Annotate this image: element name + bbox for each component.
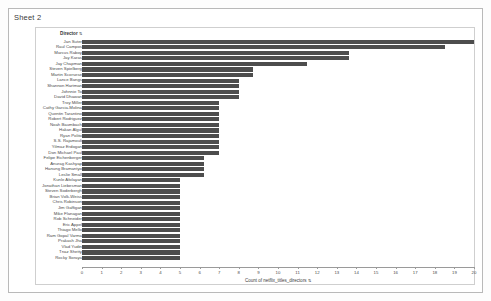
bar-mark[interactable] [82,173,204,177]
x-axis-tick-label: 8 [238,270,240,275]
x-axis-tick [435,267,436,269]
chart-card: Director ⇅ Jan SuterRaul CamposMarcus Ra… [35,27,475,285]
bar-mark[interactable] [82,134,219,138]
bar-mark[interactable] [82,73,253,77]
x-axis-tick [317,267,318,269]
x-axis-tick [298,267,299,269]
x-axis-tick [396,267,397,269]
bar-mark[interactable] [82,151,219,155]
x-axis-tick-label: 12 [315,270,320,275]
x-axis-tick-label: 17 [413,270,418,275]
bar-mark[interactable] [82,212,180,216]
x-axis-tick [376,267,377,269]
bar-rows: Jan SuterRaul CamposMarcus RaboyJay Kara… [36,39,476,264]
axis-sort-icon[interactable]: ⇅ [308,278,311,283]
x-axis-tick [102,267,103,269]
bar-mark[interactable] [82,128,219,132]
sort-icon[interactable]: ⇅ [79,31,82,36]
x-axis-tick [356,267,357,269]
bar-mark[interactable] [82,162,204,166]
x-axis-tick-label: 2 [120,270,122,275]
bar-mark[interactable] [82,84,239,88]
x-axis-tick-label: 14 [354,270,359,275]
x-axis-tick-label: 7 [218,270,220,275]
worksheet-frame: Sheet 2 Director ⇅ Jan SuterRaul CamposM… [8,8,483,293]
bar-mark[interactable] [82,178,180,182]
bar-mark[interactable] [82,156,204,160]
x-axis-tick-label: 13 [334,270,339,275]
x-axis-title[interactable]: Count of netflix_titles_directors ⇅ [82,278,474,283]
bar-mark[interactable] [82,184,180,188]
bar-mark[interactable] [82,106,219,110]
bar-mark[interactable] [82,206,180,210]
dimension-column-header[interactable]: Director ⇅ [36,31,82,36]
bar-mark[interactable] [82,79,239,83]
bar-mark[interactable] [82,239,180,243]
tableau-worksheet-screenshot: Sheet 2 Director ⇅ Jan SuterRaul CamposM… [0,0,491,301]
x-axis-tick [200,267,201,269]
x-axis-tick [239,267,240,269]
bar-mark[interactable] [82,40,474,44]
dimension-header-label: Director [60,31,78,36]
x-axis-tick-label: 4 [159,270,161,275]
x-axis-tick [219,267,220,269]
bar-mark[interactable] [82,145,219,149]
x-axis-tick-label: 1 [100,270,102,275]
bar-mark[interactable] [82,51,349,55]
bar-mark[interactable] [82,56,349,60]
x-axis-tick-label: 0 [81,270,83,275]
bar-mark[interactable] [82,45,445,49]
x-axis-tick-label: 6 [198,270,200,275]
bar-mark[interactable] [82,250,180,254]
bar-mark[interactable] [82,62,307,66]
x-axis-title-label: Count of netflix_titles_directors [245,278,307,283]
bar-mark[interactable] [82,95,239,99]
bar-mark[interactable] [82,228,180,232]
x-axis-tick-label: 16 [393,270,398,275]
bar-row[interactable]: Rocky Soraya [36,255,476,261]
x-axis-tick [258,267,259,269]
x-axis-tick [160,267,161,269]
x-axis-tick-label: 5 [179,270,181,275]
x-axis-tick [454,267,455,269]
bar-mark[interactable] [82,140,219,144]
bar-row-label[interactable]: Rocky Soraya [38,255,82,260]
bar-mark[interactable] [82,195,180,199]
bar-mark[interactable] [82,256,180,260]
bar-mark[interactable] [82,201,180,205]
x-axis-tick-label: 3 [140,270,142,275]
x-axis-tick [415,267,416,269]
x-axis-tick-label: 18 [432,270,437,275]
x-axis-tick [474,267,475,269]
bar-mark[interactable] [82,189,180,193]
bar-mark[interactable] [82,101,219,105]
bar-mark[interactable] [82,245,180,249]
bar-mark[interactable] [82,90,239,94]
bar-mark[interactable] [82,67,253,71]
x-axis-tick [337,267,338,269]
x-axis-tick-label: 11 [295,270,299,275]
bar-mark[interactable] [82,123,219,127]
x-axis-tick [121,267,122,269]
x-axis-tick [180,267,181,269]
bar-mark[interactable] [82,167,204,171]
x-axis-tick [141,267,142,269]
bar-mark[interactable] [82,117,219,121]
sheet-title: Sheet 2 [14,13,41,22]
x-axis-tick-label: 15 [374,270,379,275]
bar-mark[interactable] [82,217,180,221]
x-axis-tick-label: 19 [452,270,457,275]
x-axis-tick-label: 9 [257,270,259,275]
x-axis-tick-label: 10 [276,270,281,275]
bar-mark[interactable] [82,223,180,227]
bar-mark[interactable] [82,112,219,116]
x-axis-tick [82,267,83,269]
x-axis-tick [278,267,279,269]
x-axis-tick-label: 20 [472,270,477,275]
bar-mark[interactable] [82,234,180,238]
